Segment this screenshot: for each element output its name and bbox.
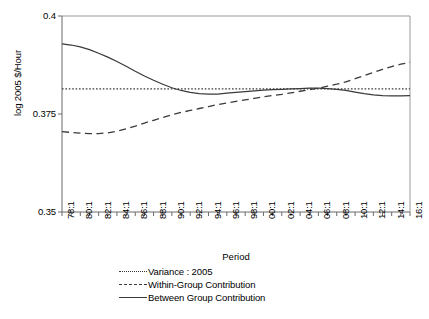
- legend-solid-line-icon: [118, 292, 148, 304]
- x-axis-tick-label: 94:1: [213, 201, 223, 219]
- legend-dashed-line-icon: [118, 279, 148, 291]
- x-axis-tick-label: 80:1: [84, 201, 94, 219]
- legend-item-label: Between Group Contribution: [148, 292, 265, 304]
- x-axis-tick-label: 12:1: [377, 201, 387, 219]
- chart-container: log 2005 $/Hour 0.40.3750.35 78:180:182:…: [0, 0, 429, 319]
- x-axis-tick-label: 06:1: [322, 201, 332, 219]
- x-axis-tick-label: 16:1: [414, 201, 424, 219]
- y-axis-title: log 2005 $/Hour: [10, 18, 26, 148]
- x-axis-title: Period: [62, 251, 410, 262]
- chart-legend: Variance : 2005Within-Group Contribution…: [118, 265, 378, 304]
- x-axis-tick-label: 88:1: [158, 201, 168, 219]
- x-axis-tick-label: 02:1: [286, 201, 296, 219]
- x-axis-tick-label: 08:1: [341, 201, 351, 219]
- x-axis-tick-label: 82:1: [103, 201, 113, 219]
- x-axis-tick-label: 92:1: [194, 201, 204, 219]
- legend-item[interactable]: Within-Group Contribution: [118, 278, 378, 291]
- y-axis-tick-label: 0.35: [16, 207, 56, 217]
- x-axis-tick-label: 04:1: [304, 201, 314, 219]
- legend-item-label: Variance : 2005: [148, 266, 212, 278]
- x-axis-tick-label: 86:1: [139, 201, 149, 219]
- series-line-2: [62, 62, 410, 133]
- data-series-group: [62, 44, 410, 134]
- plot-frame: [62, 16, 410, 212]
- legend-dotted-line-icon: [118, 266, 148, 278]
- series-line-3: [62, 44, 410, 96]
- x-axis-tick-label: 78:1: [66, 201, 76, 219]
- x-axis-tick-label: 98:1: [249, 201, 259, 219]
- legend-item[interactable]: Between Group Contribution: [118, 291, 378, 304]
- y-axis-tick-label: 0.4: [16, 11, 56, 21]
- legend-item-label: Within-Group Contribution: [148, 279, 255, 291]
- legend-item[interactable]: Variance : 2005: [118, 265, 378, 278]
- x-axis-tick-label: 96:1: [231, 201, 241, 219]
- y-axis-tick-label: 0.375: [16, 109, 56, 119]
- x-axis-tick-label: 90:1: [176, 201, 186, 219]
- y-axis-ticks: [58, 16, 62, 212]
- x-axis-tick-label: 10:1: [359, 201, 369, 219]
- x-axis-tick-label: 84:1: [121, 201, 131, 219]
- x-axis-tick-label: 14:1: [396, 201, 406, 219]
- x-axis-tick-label: 00:1: [267, 201, 277, 219]
